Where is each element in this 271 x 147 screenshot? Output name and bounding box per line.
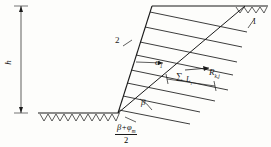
formula-numerator-text: β+φ <box>117 122 132 132</box>
callout-2-leader <box>123 40 132 46</box>
height-dimension-group <box>14 6 28 113</box>
nail-inclination-label: α1 <box>155 58 163 69</box>
soil-nail-group <box>119 12 247 124</box>
soil-nail <box>145 27 242 47</box>
figure-container: h 1 2 α1 β Rk,j ∑ Li β+φm 2 <box>0 0 271 147</box>
slope-angle-label: β <box>141 98 145 107</box>
bond-length-label: Li <box>186 76 192 87</box>
formula-denominator: 2 <box>115 135 137 146</box>
nail-force-arrow-group <box>185 66 209 71</box>
soil-nail <box>150 12 247 32</box>
failure-plane-angle-formula: β+φm 2 <box>115 122 137 145</box>
summation-symbol-label: ∑ <box>176 72 182 81</box>
callout-label-1: 1 <box>252 17 257 26</box>
height-arrow-bottom-icon <box>19 107 23 113</box>
slope-face-line <box>118 6 152 113</box>
height-arrow-top-icon <box>19 6 23 12</box>
callout-label-2: 2 <box>115 36 120 45</box>
soil-nail <box>123 96 200 112</box>
alpha-subscript: 1 <box>160 63 163 69</box>
formula-numerator-subscript: m <box>132 128 136 134</box>
height-label: h <box>4 60 13 65</box>
formula-numerator: β+φm <box>115 122 137 135</box>
R-subscript: k,j <box>215 73 220 79</box>
L-subscript: i <box>190 81 191 86</box>
nail-force-label: Rk,j <box>209 68 220 79</box>
ground-hatching-left <box>40 114 119 121</box>
